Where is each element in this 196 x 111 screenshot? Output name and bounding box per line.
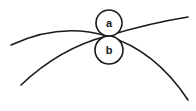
circle-b-label: b (106, 44, 113, 56)
circle-b-group: b (95, 36, 123, 64)
circle-a-label: a (106, 17, 113, 29)
circle-a-group: a (96, 10, 122, 36)
diagram-canvas: a b (0, 0, 196, 111)
